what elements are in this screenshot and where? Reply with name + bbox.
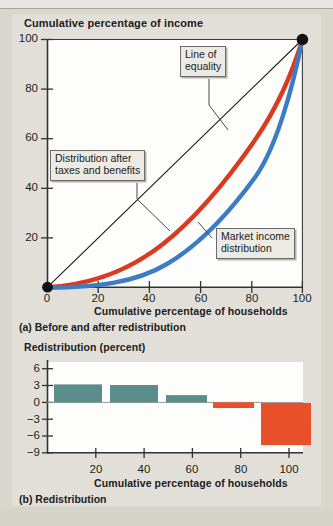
- x-tick-a-0: 0: [33, 292, 61, 304]
- callout-line-of-equality-line1: Line of: [185, 49, 221, 61]
- x-tick-a-40: 40: [135, 292, 163, 304]
- panel-a-caption: (a) Before and after redistribution: [19, 321, 186, 333]
- x-tick-a-60: 60: [187, 292, 215, 304]
- bar-0-20: [54, 384, 102, 402]
- callout-after-taxes-line1: Distribution after: [55, 153, 140, 165]
- y-tick-b-neg6: −6: [0, 429, 40, 441]
- redistribution-chart: [0, 355, 333, 470]
- panel-b-x-axis-title: Cumulative percentage of households: [94, 477, 288, 489]
- callout-market-income: Market income distribution: [216, 228, 295, 259]
- figure-page: Cumulative percentage of income: [0, 0, 333, 526]
- y-tick-b-3: 3: [0, 379, 40, 391]
- y-tick-a-60: 60: [0, 131, 38, 143]
- bar-20-40: [110, 385, 158, 402]
- x-tick-a-80: 80: [238, 292, 266, 304]
- y-tick-a-40: 40: [0, 181, 38, 193]
- callout-after-taxes-line2: taxes and benefits: [55, 165, 140, 177]
- y-tick-a-80: 80: [0, 82, 38, 94]
- x-tick-b-100: 100: [275, 463, 303, 475]
- callout-line-of-equality-line2: equality: [185, 61, 221, 73]
- origin-marker-dot: [42, 282, 53, 293]
- y-tick-b-neg9: −9: [0, 446, 40, 458]
- panel-b-caption: (b) Redistribution: [19, 493, 107, 505]
- x-tick-b-60: 60: [178, 463, 206, 475]
- panel-b-y-axis-title: Redistribution (percent): [24, 341, 145, 353]
- x-tick-b-80: 80: [227, 463, 255, 475]
- bar-80-100: [261, 403, 311, 445]
- callout-market-income-line1: Market income: [221, 231, 290, 243]
- page-top-strip: [0, 0, 333, 8]
- y-tick-b-6: 6: [0, 362, 40, 374]
- x-tick-a-100: 100: [288, 292, 316, 304]
- y-tick-a-20: 20: [0, 231, 38, 243]
- panel-a-x-axis-title: Cumulative percentage of households: [94, 305, 288, 317]
- x-tick-b-20: 20: [82, 463, 110, 475]
- x-tick-b-40: 40: [130, 463, 158, 475]
- y-tick-b-0: 0: [0, 396, 40, 408]
- bar-40-60: [166, 395, 207, 402]
- page-bottom-strip: [0, 508, 333, 526]
- callout-line-of-equality: Line of equality: [180, 46, 226, 77]
- callout-after-taxes: Distribution after taxes and benefits: [50, 150, 145, 181]
- y-tick-b-neg3: −3: [0, 413, 40, 425]
- x-tick-a-20: 20: [84, 292, 112, 304]
- page-top-rule: [0, 8, 333, 9]
- top-right-marker-dot: [297, 34, 309, 46]
- callout-market-income-line2: distribution: [221, 243, 290, 255]
- bar-60-80: [213, 402, 254, 408]
- y-tick-a-100: 100: [0, 32, 38, 44]
